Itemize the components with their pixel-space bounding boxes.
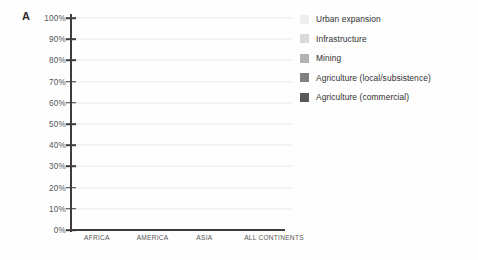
legend-item[interactable]: Mining bbox=[300, 53, 431, 63]
bar-series-container bbox=[70, 18, 285, 230]
y-axis-tick-label: 40% bbox=[49, 141, 66, 150]
y-axis-tick-label: 60% bbox=[49, 98, 66, 107]
bar-group[interactable] bbox=[137, 18, 165, 230]
y-axis-tick-label: 80% bbox=[49, 56, 66, 65]
y-axis-tick-label: 100% bbox=[44, 14, 66, 23]
bar-group[interactable] bbox=[244, 18, 272, 230]
legend-item[interactable]: Urban expansion bbox=[300, 14, 431, 24]
legend-item-label: Agriculture (commercial) bbox=[316, 92, 409, 102]
y-axis-tick-mark bbox=[66, 123, 76, 125]
y-axis-tick-mark bbox=[66, 208, 76, 210]
x-axis-tick-label: ASIA bbox=[190, 234, 218, 241]
y-axis-tick-mark bbox=[66, 102, 76, 104]
y-axis-tick-mark bbox=[66, 60, 76, 62]
legend-item-label: Agriculture (local/subsistence) bbox=[316, 73, 431, 83]
legend-swatch-icon bbox=[300, 93, 309, 102]
legend-swatch-icon bbox=[300, 73, 309, 82]
legend-swatch-icon bbox=[300, 15, 309, 24]
y-axis-tick-label: 20% bbox=[49, 183, 66, 192]
x-axis-tick-label: ALL CONTINENTS bbox=[244, 234, 272, 241]
y-axis-tick-label: 10% bbox=[49, 204, 66, 213]
figure-panel: A 100%90%80%70%60%50%40%30%20%10%0% AFRI… bbox=[0, 0, 478, 260]
legend-item-label: Infrastructure bbox=[316, 34, 367, 44]
x-axis-tick-labels: AFRICAAMERICAASIAALL CONTINENTS bbox=[70, 234, 285, 241]
y-axis-tick-mark bbox=[66, 166, 76, 168]
legend-item-label: Mining bbox=[316, 53, 341, 63]
legend-item[interactable]: Infrastructure bbox=[300, 34, 431, 44]
legend-item[interactable]: Agriculture (commercial) bbox=[300, 92, 431, 102]
legend-item-label: Urban expansion bbox=[316, 14, 381, 24]
legend-swatch-icon bbox=[300, 34, 309, 43]
y-axis-tick-label: 30% bbox=[49, 162, 66, 171]
y-axis-tick-label: 70% bbox=[49, 77, 66, 86]
bar-group[interactable] bbox=[190, 18, 218, 230]
y-axis-tick-label: 0% bbox=[54, 226, 66, 235]
x-axis-tick-label: AMERICA bbox=[137, 234, 165, 241]
y-axis-tick-label: 90% bbox=[49, 35, 66, 44]
chart-legend: Urban expansionInfrastructureMiningAgric… bbox=[300, 14, 431, 102]
legend-item[interactable]: Agriculture (local/subsistence) bbox=[300, 73, 431, 83]
y-axis-tick-labels: 100%90%80%70%60%50%40%30%20%10%0% bbox=[24, 18, 66, 230]
y-axis-tick-label: 50% bbox=[49, 120, 66, 129]
y-axis-tick-mark bbox=[66, 81, 76, 83]
y-axis-tick-mark bbox=[66, 229, 76, 231]
bar-group[interactable] bbox=[83, 18, 111, 230]
y-axis-tick-mark bbox=[66, 38, 76, 40]
y-axis-tick-mark bbox=[66, 17, 76, 19]
x-axis-tick-label: AFRICA bbox=[83, 234, 111, 241]
y-axis-tick-mark bbox=[66, 144, 76, 146]
y-axis-tick-mark bbox=[66, 187, 76, 189]
legend-swatch-icon bbox=[300, 54, 309, 63]
plot-area: 100%90%80%70%60%50%40%30%20%10%0% AFRICA… bbox=[70, 18, 285, 230]
